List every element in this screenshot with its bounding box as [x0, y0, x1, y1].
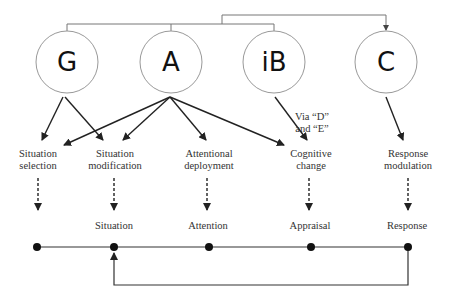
annotation-line1: Via “D”	[295, 111, 329, 122]
influence-arrows	[42, 97, 403, 145]
node-A: A	[140, 31, 202, 93]
strategy-label: Situation	[96, 148, 135, 159]
strategy-label: Cognitive	[290, 148, 332, 159]
node-G: G	[36, 31, 98, 93]
node-label: A	[162, 47, 180, 77]
strategy-label: Attentional	[185, 148, 232, 159]
strategy-label: Situation	[19, 148, 58, 159]
stage-labels: Situation Attention Appraisal Response	[95, 220, 427, 231]
strategy-label: modification	[88, 160, 142, 171]
node-label: iB	[261, 47, 286, 77]
strategy-label: Response	[388, 148, 429, 159]
process-timeline	[33, 243, 412, 251]
node-C: C	[355, 31, 417, 93]
node-label: C	[377, 47, 395, 77]
stage-label: Attention	[188, 220, 228, 231]
strategy-label: deployment	[184, 160, 234, 171]
stage-label: Response	[387, 220, 428, 231]
dashed-arrows	[38, 178, 408, 210]
stage-label: Appraisal	[290, 220, 331, 231]
node-iB: iB	[243, 31, 305, 93]
strategy-label: selection	[19, 160, 57, 171]
emotion-regulation-diagram: G A iB C Via “D” and “E” Situation selec…	[0, 0, 449, 301]
feedback-loop	[114, 251, 408, 285]
annotation-line2: and “E”	[295, 123, 329, 134]
top-connectors	[67, 15, 386, 31]
strategy-label: modulation	[384, 160, 433, 171]
strategy-labels: Situation selection Situation modificati…	[19, 148, 433, 171]
stage-label: Situation	[95, 220, 134, 231]
strategy-label: change	[296, 160, 326, 171]
node-label: G	[57, 47, 77, 77]
